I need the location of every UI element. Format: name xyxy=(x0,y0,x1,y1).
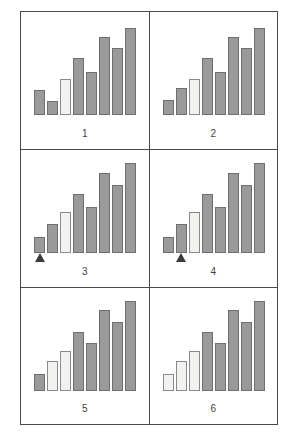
panel-2-marker-slot-5 xyxy=(215,115,226,126)
panel-4-marker-slot-1 xyxy=(163,253,174,264)
panel-5-bar-4 xyxy=(73,332,84,391)
panel-3-marker-slot-3 xyxy=(60,253,71,264)
panel-6-bar-8 xyxy=(254,301,265,391)
panel-3-marker-slot-6 xyxy=(99,253,110,264)
panel-5-bar-5 xyxy=(86,343,97,391)
panel-4-marker-slot-3 xyxy=(189,253,200,264)
panel-4-marker-slot-8 xyxy=(254,253,265,264)
figure-root: 1 2 3 4 5 6 xyxy=(0,0,292,436)
panel-1-plot-area xyxy=(30,20,140,115)
panel-1-bar-6 xyxy=(99,37,110,115)
panel-3-marker-slot-4 xyxy=(73,253,84,264)
panel-2-bar-1 xyxy=(163,100,174,115)
panel-1-marker-slot-3 xyxy=(60,115,71,126)
panel-3-bar-1 xyxy=(34,237,45,253)
panel-6-marker-row xyxy=(159,391,268,402)
panel-1-bar-3 xyxy=(60,79,71,115)
panel-6-marker-slot-7 xyxy=(241,391,252,402)
panel-2-bar-6 xyxy=(228,37,239,115)
panel-4-bar-4 xyxy=(202,194,213,253)
panel-4-marker-row xyxy=(159,253,268,264)
triangle-marker-icon xyxy=(176,253,186,262)
panel-3-marker-row xyxy=(30,253,140,264)
panel-5-marker-row xyxy=(30,391,140,402)
panel-5-marker-slot-8 xyxy=(125,391,136,402)
panel-6-marker-slot-3 xyxy=(189,391,200,402)
panel-4-plot-area xyxy=(159,158,268,253)
panel-4-marker-slot-4 xyxy=(202,253,213,264)
panel-2-marker-slot-6 xyxy=(228,115,239,126)
panel-5-bar-6 xyxy=(99,310,110,391)
panel-3-marker-slot-2 xyxy=(47,253,58,264)
panel-2-bar-3 xyxy=(189,79,200,115)
panel-5-marker-slot-3 xyxy=(60,391,71,402)
panel-2-marker-slot-4 xyxy=(202,115,213,126)
panel-6-marker-slot-8 xyxy=(254,391,265,402)
panel-6-bar-1 xyxy=(163,374,174,391)
panel-6-label: 6 xyxy=(150,403,277,415)
panel-6-bar-7 xyxy=(241,322,252,391)
panel-2-plot-area xyxy=(159,20,268,115)
panel-4-bar-1 xyxy=(163,237,174,253)
panel-3-plot-area xyxy=(30,158,140,253)
panel-6-marker-slot-2 xyxy=(176,391,187,402)
panel-6-marker-slot-5 xyxy=(215,391,226,402)
panel-2-bar-5 xyxy=(215,72,226,115)
panel-5-bar-2 xyxy=(47,361,58,391)
panel-3-marker-slot-7 xyxy=(112,253,123,264)
panel-1-marker-slot-1 xyxy=(34,115,45,126)
panel-2-marker-slot-8 xyxy=(254,115,265,126)
panel-3-bar-4 xyxy=(73,194,84,253)
panel-4-bar-6 xyxy=(228,173,239,253)
panel-4-marker-slot-5 xyxy=(215,253,226,264)
panel-5-marker-slot-6 xyxy=(99,391,110,402)
panel-1-bar-7 xyxy=(112,48,123,115)
panel-2-marker-slot-2 xyxy=(176,115,187,126)
panel-6-marker-slot-4 xyxy=(202,391,213,402)
panel-2-bar-2 xyxy=(176,88,187,115)
panel-2: 2 xyxy=(149,12,277,149)
panel-6-plot-area xyxy=(159,296,268,391)
panel-2-marker-row xyxy=(159,115,268,126)
panel-3-bar-6 xyxy=(99,173,110,253)
panel-3-bar-8 xyxy=(125,163,136,253)
panel-3-marker-slot-5 xyxy=(86,253,97,264)
panel-6: 6 xyxy=(149,287,277,424)
panel-1-bar-1 xyxy=(34,90,45,115)
panel-3-bar-5 xyxy=(86,207,97,253)
panel-2-bar-8 xyxy=(254,28,265,115)
panel-1-marker-slot-4 xyxy=(73,115,84,126)
panel-1-marker-slot-7 xyxy=(112,115,123,126)
panel-5-plot-area xyxy=(30,296,140,391)
panel-6-bar-6 xyxy=(228,310,239,391)
panel-6-bar-5 xyxy=(215,343,226,391)
panel-6-bar-2 xyxy=(176,361,187,391)
panel-4-bar-7 xyxy=(241,185,252,253)
panel-5-bar-1 xyxy=(34,374,45,391)
panel-3: 3 xyxy=(21,149,149,286)
panel-5-marker-slot-2 xyxy=(47,391,58,402)
panel-2-marker-slot-3 xyxy=(189,115,200,126)
panel-3-bar-7 xyxy=(112,185,123,253)
panel-4-bar-2 xyxy=(176,224,187,253)
panel-5: 5 xyxy=(21,287,149,424)
panel-1-marker-slot-2 xyxy=(47,115,58,126)
panel-3-label: 3 xyxy=(21,266,149,278)
panel-2-bar-7 xyxy=(241,48,252,115)
panel-4-bar-5 xyxy=(215,207,226,253)
panel-5-bar-7 xyxy=(112,322,123,391)
panel-1-marker-slot-6 xyxy=(99,115,110,126)
panel-2-bar-4 xyxy=(202,58,213,115)
panel-4-bar-8 xyxy=(254,163,265,253)
panel-2-label: 2 xyxy=(150,128,277,140)
panel-4-marker-slot-7 xyxy=(241,253,252,264)
panel-4-marker-slot-2 xyxy=(176,253,187,264)
panel-2-marker-slot-7 xyxy=(241,115,252,126)
panel-4: 4 xyxy=(149,149,277,286)
panel-1: 1 xyxy=(21,12,149,149)
panel-5-marker-slot-5 xyxy=(86,391,97,402)
panel-5-marker-slot-1 xyxy=(34,391,45,402)
panel-1-marker-slot-8 xyxy=(125,115,136,126)
panel-1-marker-slot-5 xyxy=(86,115,97,126)
panel-4-label: 4 xyxy=(150,266,277,278)
